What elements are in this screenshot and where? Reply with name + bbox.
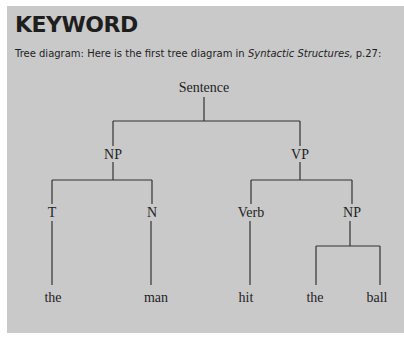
syntax-tree-diagram: Sentence NP VP T N Verb NP the man hit t… bbox=[0, 0, 404, 338]
leaf-the: the bbox=[44, 290, 61, 305]
leaf-man: man bbox=[144, 290, 168, 305]
leaf-hit: hit bbox=[239, 290, 254, 305]
node-np: NP bbox=[104, 147, 122, 162]
leaf-ball: ball bbox=[367, 290, 388, 305]
node-sentence: Sentence bbox=[179, 80, 230, 95]
tree-lines bbox=[52, 97, 380, 285]
leaf-the-2: the bbox=[306, 290, 323, 305]
node-t: T bbox=[48, 205, 57, 220]
node-np-object: NP bbox=[343, 205, 361, 220]
node-vp: VP bbox=[291, 147, 309, 162]
node-n: N bbox=[147, 205, 157, 220]
node-verb: Verb bbox=[238, 205, 264, 220]
